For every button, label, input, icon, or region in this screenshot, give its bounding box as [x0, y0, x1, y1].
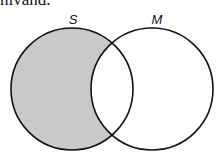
venn-diagram: S M — [0, 0, 221, 162]
set-s-label: S — [69, 12, 78, 27]
set-m-label: M — [152, 12, 163, 27]
set-m-circle — [91, 28, 213, 150]
